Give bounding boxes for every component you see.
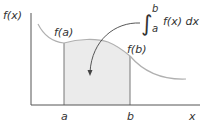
shaded-area [64,39,130,105]
integral-lower-limit: a [152,23,158,34]
x-axis-label: x [188,110,196,123]
integral-sign: ∫ [141,11,152,36]
integral-upper-limit: b [152,3,158,14]
b-tick-label: b [127,110,134,123]
a-tick-label: a [61,110,68,123]
fb-label: f(b) [127,43,146,56]
integral-diagram: f(x) f(a) f(b) a b x ∫ b a f(x) dx [0,0,211,129]
integrand: f(x) dx [163,15,199,28]
y-axis-label: f(x) [3,9,22,22]
fa-label: f(a) [54,26,73,39]
